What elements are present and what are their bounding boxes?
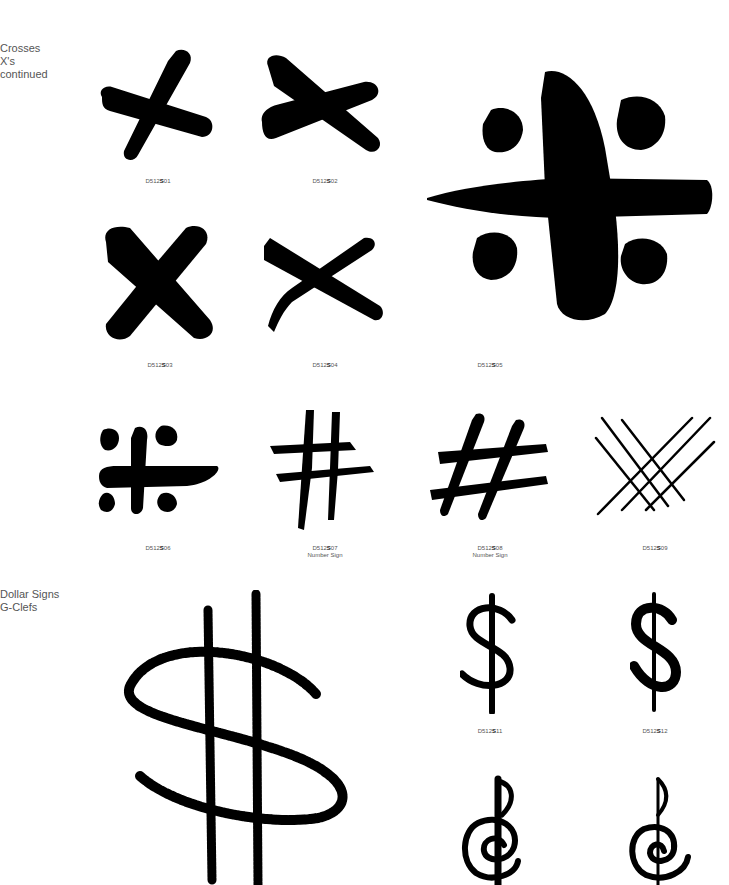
- item-caption: D512S07 Number Sign: [307, 545, 342, 559]
- item-caption: D512S04: [312, 362, 337, 369]
- brush-cross-x-icon: [260, 52, 385, 157]
- bold-x-icon: [100, 222, 218, 342]
- item-caption: D512S12: [642, 728, 667, 735]
- crosshatch-icon: [592, 414, 718, 520]
- section-title-line: X's: [0, 55, 48, 68]
- section-title-dollar-signs: Dollar Signs G-Clefs: [0, 588, 59, 614]
- item-caption: D512S08 Number Sign: [472, 545, 507, 559]
- dollar-sign-icon: [460, 592, 520, 714]
- item-caption: D512S01: [145, 178, 170, 185]
- item-caption: D512S06: [145, 545, 170, 552]
- item-caption: D512S05: [477, 362, 502, 369]
- section-title-line: continued: [0, 68, 48, 81]
- brush-cross-x-icon: [98, 45, 216, 165]
- g-clef-icon: [458, 775, 524, 885]
- hash-icon: [270, 408, 380, 530]
- item-caption: D512S09: [642, 545, 667, 552]
- cross-with-dots-icon: [425, 68, 715, 323]
- section-title-crosses: Crosses X's continued: [0, 42, 48, 81]
- chalk-dollar-sign-icon: [118, 590, 368, 885]
- section-title-line: Dollar Signs: [0, 588, 59, 601]
- item-caption: D512S03: [147, 362, 172, 369]
- section-title-line: G-Clefs: [0, 601, 59, 614]
- thin-x-icon: [262, 236, 384, 334]
- item-caption: D512S02: [312, 178, 337, 185]
- cross-with-dots-icon: [97, 424, 222, 516]
- item-caption: D512S11: [478, 728, 503, 735]
- section-title-line: Crosses: [0, 42, 48, 55]
- slanted-hash-icon: [428, 412, 552, 524]
- g-clef-icon: [624, 775, 694, 885]
- dollar-sign-icon: [630, 590, 684, 714]
